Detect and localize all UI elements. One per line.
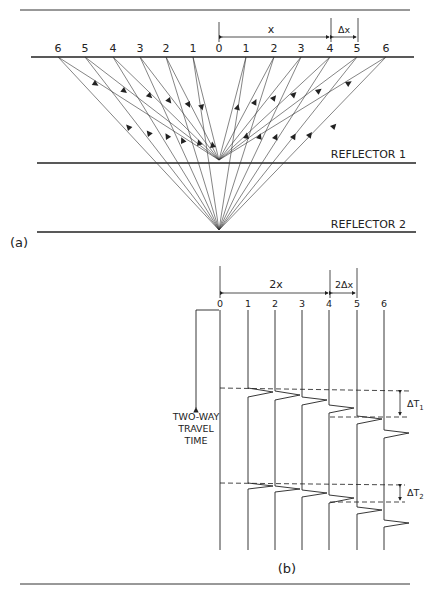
dimension-x-label: x <box>268 23 275 36</box>
trace-3 <box>302 310 327 550</box>
trace-4 <box>329 310 354 550</box>
ray-arrows-r2 <box>124 122 339 148</box>
dimension-dx-label: Δx <box>338 24 350 35</box>
receiver-label-6: 6 <box>383 42 390 55</box>
receiver-label-5: 5 <box>354 42 361 55</box>
time-axis-arrow <box>196 310 219 408</box>
rays-reflector-2 <box>58 57 386 230</box>
source-label-1: 1 <box>190 42 197 55</box>
source-label-5: 5 <box>82 42 89 55</box>
reflector-1-label: REFLECTOR 1 <box>331 148 406 161</box>
time-axis-label-3: TIME <box>184 435 208 446</box>
cmp-geometry-figure: x Δx 6 5 4 3 2 1 0 1 2 3 4 5 6 <box>0 0 439 591</box>
receiver-label-4: 4 <box>327 42 334 55</box>
trace-5 <box>357 310 382 550</box>
source-label-3: 3 <box>137 42 144 55</box>
panel-b: 2x 2Δx 0 1 2 3 4 5 6 TWO-WAY TRAVEL TIME <box>172 266 424 576</box>
trace-2 <box>275 310 300 550</box>
source-label-6: 6 <box>55 42 62 55</box>
trace-1 <box>248 310 273 550</box>
dimension-2x-label: 2x <box>269 278 283 291</box>
source-label-4: 4 <box>110 42 117 55</box>
source-label-2: 2 <box>163 42 170 55</box>
trace-label-3: 3 <box>299 298 305 309</box>
ray-arrows-r1 <box>92 79 354 111</box>
receiver-label-2: 2 <box>271 42 278 55</box>
center-label-0: 0 <box>216 42 223 55</box>
seismic-traces <box>220 310 409 550</box>
trace-label-6: 6 <box>381 298 387 309</box>
trace-label-1: 1 <box>245 298 251 309</box>
time-axis-label-2: TRAVEL <box>177 423 214 434</box>
panel-a-caption: (a) <box>10 235 28 250</box>
panel-a: x Δx 6 5 4 3 2 1 0 1 2 3 4 5 6 <box>10 18 416 250</box>
panel-b-caption: (b) <box>278 561 296 576</box>
receiver-label-3: 3 <box>298 42 305 55</box>
trace-label-0: 0 <box>217 298 223 309</box>
dimension-2dx-label: 2Δx <box>335 279 354 290</box>
trace-6 <box>384 310 409 550</box>
time-axis-label-1: TWO-WAY <box>172 411 220 422</box>
trace-label-2: 2 <box>272 298 278 309</box>
delta-t2-label: ΔT2 <box>407 487 424 501</box>
trace-label-4: 4 <box>326 298 332 309</box>
reflector-2-label: REFLECTOR 2 <box>331 218 406 231</box>
delta-t1-label: ΔT1 <box>407 398 424 412</box>
rays-reflector-1 <box>58 57 386 160</box>
receiver-label-1: 1 <box>243 42 250 55</box>
trace-label-5: 5 <box>354 298 360 309</box>
